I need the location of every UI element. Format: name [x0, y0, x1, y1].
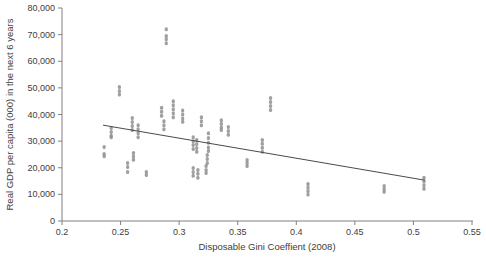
data-point [206, 153, 209, 157]
data-point [269, 100, 272, 104]
data-point [162, 127, 165, 131]
y-tick-label: 40,000 [27, 110, 55, 120]
y-tick-label: 30,000 [27, 136, 55, 146]
data-point [172, 103, 175, 107]
x-tick-label: 0.25 [112, 227, 130, 237]
data-point [192, 135, 195, 139]
y-tick-label: 60,000 [27, 56, 55, 66]
data-point [192, 147, 195, 151]
data-point [200, 119, 203, 123]
data-point [269, 96, 272, 100]
data-point [160, 114, 163, 118]
data-point [165, 41, 168, 45]
data-point [126, 170, 129, 174]
y-tick-label: 10,000 [27, 189, 55, 199]
data-point [103, 154, 106, 158]
data-point [172, 111, 175, 115]
data-point [227, 129, 230, 133]
data-point [131, 124, 134, 128]
data-point [118, 93, 121, 97]
data-point [220, 118, 223, 122]
data-point [192, 166, 195, 170]
data-point [207, 136, 210, 140]
data-point [206, 157, 209, 161]
data-point [137, 135, 140, 139]
data-point [200, 115, 203, 119]
data-point [110, 135, 113, 139]
data-point [181, 113, 184, 117]
data-point [110, 130, 113, 134]
data-point [383, 190, 386, 194]
x-axis-title: Disposable Gini Coeffient (2008) [198, 241, 335, 252]
data-point [261, 138, 264, 142]
data-point [165, 37, 168, 41]
data-point [245, 164, 248, 168]
data-point [132, 151, 135, 155]
data-point [131, 120, 134, 124]
data-point [118, 85, 121, 89]
y-tick-label: 0 [50, 216, 55, 226]
data-point [172, 115, 175, 119]
data-point [126, 161, 129, 165]
data-point [165, 27, 168, 31]
data-point [306, 185, 309, 189]
y-tick-label: 70,000 [27, 30, 55, 40]
chart-canvas: 010,00020,00030,00040,00050,00060,00070,… [0, 0, 486, 263]
data-point [269, 108, 272, 112]
data-point [162, 119, 165, 123]
y-tick-label: 20,000 [27, 163, 55, 173]
x-tick-label: 0.4 [290, 227, 303, 237]
data-point [195, 146, 198, 150]
data-point [306, 189, 309, 193]
scatter-chart-figure: 010,00020,00030,00040,00050,00060,00070,… [0, 0, 486, 263]
y-tick-label: 50,000 [27, 83, 55, 93]
data-point [204, 171, 207, 175]
data-point [196, 172, 199, 176]
data-point [181, 120, 184, 124]
data-point [192, 143, 195, 147]
data-point [261, 142, 264, 146]
data-point [196, 168, 199, 172]
data-point [220, 128, 223, 132]
data-point [160, 106, 163, 110]
data-point [204, 164, 207, 168]
data-point [195, 142, 198, 146]
data-point [181, 109, 184, 113]
data-point [422, 183, 425, 187]
data-point [162, 123, 165, 127]
data-point [132, 158, 135, 162]
data-point [126, 165, 129, 169]
data-point [227, 133, 230, 137]
data-point [227, 125, 230, 129]
data-point [200, 123, 203, 127]
x-tick-label: 0.55 [463, 227, 481, 237]
data-point [207, 146, 210, 150]
data-point [145, 173, 148, 177]
data-point [261, 146, 264, 150]
data-point [306, 192, 309, 196]
data-point [207, 131, 210, 135]
data-point [172, 107, 175, 111]
data-point [220, 122, 223, 126]
y-tick-label: 80,000 [27, 3, 55, 13]
data-point [131, 116, 134, 120]
data-point [306, 182, 309, 186]
x-tick-label: 0.35 [229, 227, 247, 237]
x-tick-label: 0.3 [173, 227, 186, 237]
y-axis-title: Real GDP per capita (000) in the next 6 … [4, 18, 15, 210]
data-point [269, 104, 272, 108]
data-point [207, 149, 210, 153]
data-point [160, 110, 163, 114]
x-tick-label: 0.45 [346, 227, 364, 237]
data-point [172, 99, 175, 103]
data-point [192, 174, 195, 178]
data-point [118, 89, 121, 93]
x-tick-label: 0.2 [56, 227, 69, 237]
data-point [103, 145, 106, 149]
x-tick-label: 0.5 [407, 227, 420, 237]
data-point [195, 150, 198, 154]
data-point [196, 176, 199, 180]
data-point [422, 187, 425, 191]
data-point [137, 123, 140, 127]
data-point [422, 176, 425, 180]
